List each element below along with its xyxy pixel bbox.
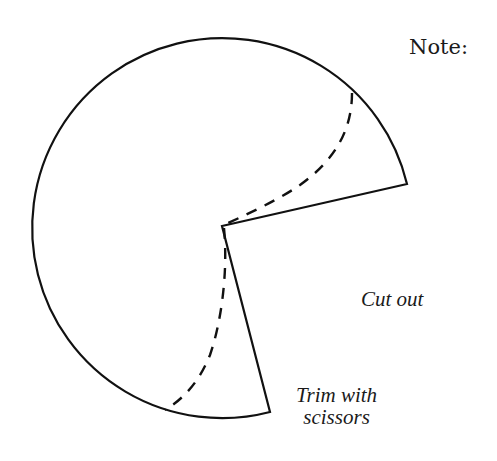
trim-label-line2: scissors — [296, 406, 377, 428]
lower-trim-guide — [165, 228, 225, 410]
upper-trim-guide — [224, 93, 352, 225]
trim-label-line1: Trim with — [296, 384, 377, 406]
note-label: Note: — [409, 35, 468, 59]
trim-with-scissors-label: Trim with scissors — [296, 384, 377, 428]
cutout-outline — [32, 38, 407, 418]
cut-out-label: Cut out — [361, 287, 423, 312]
cone-template-diagram — [0, 0, 497, 461]
